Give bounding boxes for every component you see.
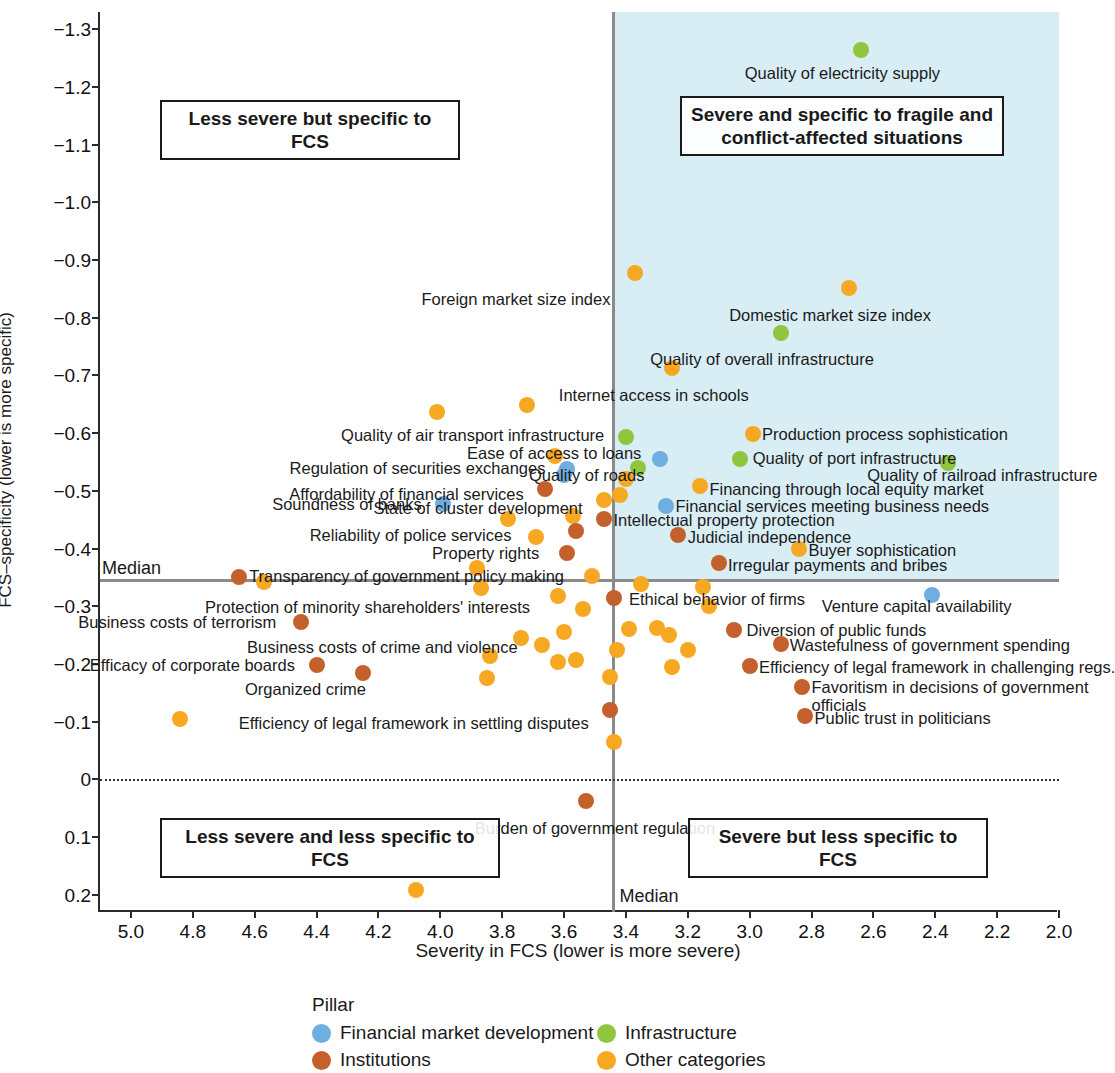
scatter-point[interactable] bbox=[578, 793, 594, 809]
scatter-point[interactable] bbox=[559, 545, 575, 561]
scatter-point[interactable] bbox=[596, 492, 612, 508]
scatter-point[interactable] bbox=[528, 529, 544, 545]
scatter-point[interactable] bbox=[680, 642, 696, 658]
x-axis-tick-label: 4.4 bbox=[303, 922, 329, 941]
scatter-point[interactable] bbox=[652, 451, 668, 467]
scatter-point[interactable] bbox=[293, 614, 309, 630]
scatter-point-label: Intellectual property protection bbox=[614, 511, 835, 529]
scatter-point-label: Organized crime bbox=[245, 680, 366, 698]
y-axis-tick-mark bbox=[92, 836, 100, 838]
x-axis-tick-label: 2.4 bbox=[922, 922, 948, 941]
legend-swatch-institutions bbox=[312, 1051, 331, 1070]
x-axis-tick-label: 2.6 bbox=[860, 922, 886, 941]
scatter-point[interactable] bbox=[602, 669, 618, 685]
scatter-point[interactable] bbox=[612, 487, 628, 503]
legend-item-financial-market-development: Financial market development bbox=[312, 1022, 597, 1044]
x-axis-tick-mark bbox=[192, 910, 194, 918]
scatter-point[interactable] bbox=[726, 622, 742, 638]
quadrant-caption-line: conflict-affected situations bbox=[691, 126, 993, 149]
legend-title: Pillar bbox=[312, 994, 765, 1016]
scatter-point[interactable] bbox=[172, 711, 188, 727]
y-axis-tick-mark bbox=[92, 86, 100, 88]
scatter-point[interactable] bbox=[841, 280, 857, 296]
scatter-point[interactable] bbox=[745, 426, 761, 442]
scatter-point[interactable] bbox=[602, 702, 618, 718]
x-axis-tick-mark bbox=[439, 910, 441, 918]
x-axis-tick-mark bbox=[811, 910, 813, 918]
scatter-point[interactable] bbox=[609, 642, 625, 658]
y-axis-tick-mark bbox=[92, 894, 100, 896]
y-axis-tick-label: −1.1 bbox=[53, 135, 91, 154]
scatter-point[interactable] bbox=[621, 621, 637, 637]
scatter-point-label: Irregular payments and bribes bbox=[728, 555, 947, 573]
quadrant-caption-line: Less severe and less specific to FCS bbox=[171, 825, 489, 871]
scatter-point[interactable] bbox=[231, 569, 247, 585]
median-label-y-axis: Median bbox=[102, 558, 161, 579]
x-axis-tick-mark bbox=[934, 910, 936, 918]
scatter-point[interactable] bbox=[309, 657, 325, 673]
x-axis-tick-label: 3.8 bbox=[489, 922, 515, 941]
scatter-point[interactable] bbox=[742, 658, 758, 674]
x-axis-tick-label: 5.0 bbox=[118, 922, 144, 941]
x-axis-tick-label: 2.0 bbox=[1046, 922, 1072, 941]
scatter-point[interactable] bbox=[556, 624, 572, 640]
y-axis-tick-mark bbox=[92, 432, 100, 434]
quadrant-caption-bottom-left: Less severe and less specific to FCS bbox=[160, 818, 500, 878]
scatter-point[interactable] bbox=[479, 670, 495, 686]
scatter-point[interactable] bbox=[534, 637, 550, 653]
x-axis-tick-mark bbox=[872, 910, 874, 918]
y-axis-tick-mark bbox=[92, 28, 100, 30]
scatter-point[interactable] bbox=[773, 325, 789, 341]
scatter-point[interactable] bbox=[575, 601, 591, 617]
scatter-point[interactable] bbox=[732, 451, 748, 467]
scatter-point[interactable] bbox=[664, 659, 680, 675]
scatter-point-label: Regulation of securities exchanges bbox=[290, 459, 546, 477]
scatter-point[interactable] bbox=[596, 511, 612, 527]
scatter-point[interactable] bbox=[692, 478, 708, 494]
x-axis-tick-label: 2.2 bbox=[984, 922, 1010, 941]
legend-label-financial-market-development: Financial market development bbox=[340, 1022, 593, 1044]
scatter-point[interactable] bbox=[606, 590, 622, 606]
legend-label-infrastructure: Infrastructure bbox=[625, 1022, 737, 1044]
y-axis-tick-label: −1.3 bbox=[53, 20, 91, 39]
scatter-point-label: Financing through local equity market bbox=[709, 480, 983, 498]
scatter-point[interactable] bbox=[794, 679, 810, 695]
x-axis-tick-mark bbox=[501, 910, 503, 918]
x-axis-tick-mark bbox=[996, 910, 998, 918]
scatter-point[interactable] bbox=[408, 882, 424, 898]
scatter-point[interactable] bbox=[627, 265, 643, 281]
scatter-point[interactable] bbox=[568, 523, 584, 539]
scatter-point[interactable] bbox=[429, 404, 445, 420]
legend-row: Institutions Other categories bbox=[312, 1049, 765, 1071]
scatter-point[interactable] bbox=[853, 42, 869, 58]
x-axis-tick-mark bbox=[563, 910, 565, 918]
scatter-point[interactable] bbox=[550, 654, 566, 670]
x-axis-tick-mark bbox=[749, 910, 751, 918]
scatter-point[interactable] bbox=[661, 627, 677, 643]
legend: Pillar Financial market development Infr… bbox=[312, 994, 765, 1071]
y-axis-tick-label: −0.6 bbox=[53, 424, 91, 443]
x-axis-tick-mark bbox=[625, 910, 627, 918]
legend-swatch-infrastructure bbox=[597, 1024, 616, 1043]
x-axis-tick-label: 4.8 bbox=[180, 922, 206, 941]
scatter-point[interactable] bbox=[550, 588, 566, 604]
scatter-point[interactable] bbox=[618, 429, 634, 445]
y-axis-tick-label: −0.9 bbox=[53, 251, 91, 270]
y-axis-label: FCS–specificity (lower is more specific) bbox=[0, 312, 16, 608]
legend-swatch-other-categories bbox=[597, 1051, 616, 1070]
scatter-point[interactable] bbox=[519, 397, 535, 413]
scatter-point-label: Efficiency of legal framework in challen… bbox=[759, 658, 1115, 676]
x-axis-tick-mark bbox=[316, 910, 318, 918]
scatter-point-label: Business costs of terrorism bbox=[78, 613, 276, 631]
quadrant-caption-top-left: Less severe but specific to FCS bbox=[160, 100, 460, 160]
scatter-point[interactable] bbox=[711, 555, 727, 571]
scatter-point[interactable] bbox=[568, 652, 584, 668]
y-axis-tick-mark bbox=[92, 317, 100, 319]
y-axis-tick-mark bbox=[92, 490, 100, 492]
scatter-point[interactable] bbox=[606, 734, 622, 750]
x-axis-tick-label: 3.6 bbox=[551, 922, 577, 941]
quadrant-caption-line: Less severe but specific to FCS bbox=[171, 107, 449, 153]
scatter-point[interactable] bbox=[355, 665, 371, 681]
scatter-point[interactable] bbox=[584, 568, 600, 584]
x-axis-tick-label: 4.0 bbox=[427, 922, 453, 941]
